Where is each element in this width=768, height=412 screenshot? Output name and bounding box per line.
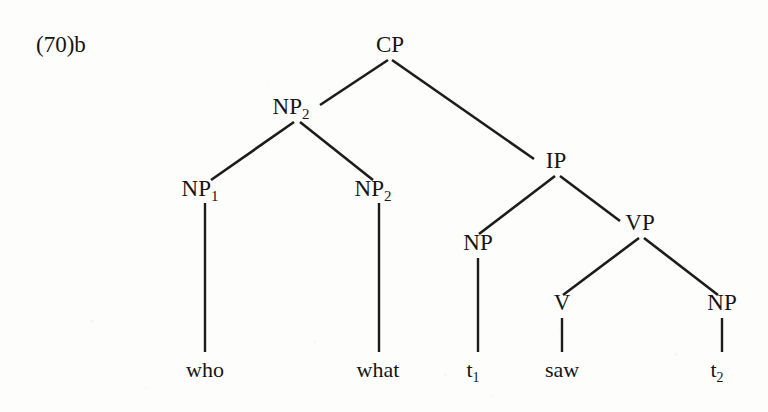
tree-branch-vp-v xyxy=(563,238,639,295)
tree-node-v: V xyxy=(554,290,571,315)
tree-branch-np2a-np2b xyxy=(300,122,373,180)
figure-root: CPNP2NP1NP2IPNPVPVNP whowhatt1sawt2 (70)… xyxy=(0,0,768,412)
tree-node-np2a: NP2 xyxy=(273,94,310,122)
example-number-label: (70)b xyxy=(36,32,86,57)
tree-node-vp: VP xyxy=(625,210,654,235)
tree-branch-cp-np2a xyxy=(320,60,388,105)
tree-terminal-t2: t2 xyxy=(710,357,723,385)
node-label-layer: CPNP2NP1NP2IPNPVPVNP xyxy=(182,32,737,315)
tree-node-npobj: NP xyxy=(707,290,736,315)
tree-terminal-who: who xyxy=(186,357,224,382)
tree-node-np2b: NP2 xyxy=(355,176,392,204)
tree-branch-ip-vp xyxy=(560,176,620,221)
tree-node-npsub: NP xyxy=(463,230,492,255)
tree-node-ip: IP xyxy=(546,148,566,173)
terminal-label-layer: whowhatt1sawt2 xyxy=(186,357,724,385)
syntax-tree-diagram: CPNP2NP1NP2IPNPVPVNP whowhatt1sawt2 (70)… xyxy=(0,0,768,412)
tree-terminal-saw: saw xyxy=(545,357,579,382)
tree-branch-cp-ip xyxy=(392,60,534,159)
tree-node-cp: CP xyxy=(376,32,404,57)
tree-branch-ip-np xyxy=(479,176,555,234)
tree-terminal-what: what xyxy=(357,357,400,382)
tree-branch-vp-npobj xyxy=(644,238,718,295)
tree-branch-np2a-np1 xyxy=(211,122,294,180)
tree-terminal-t1: t1 xyxy=(466,357,479,385)
